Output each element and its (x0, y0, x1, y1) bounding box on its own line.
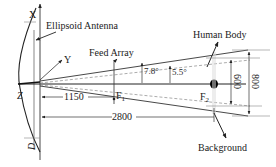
y-axis-label: Y (64, 54, 71, 65)
dim-800-label: 800 (250, 74, 261, 89)
dim-1150-label: 1150 (64, 91, 84, 102)
d-label: D (26, 142, 37, 151)
background-label: Background (198, 142, 247, 153)
focus2-label: F2 (200, 91, 210, 104)
feed-array-label: Feed Array (89, 47, 134, 58)
angle-inner-label: 5.5° (172, 67, 187, 77)
dim-2800-label: 2800 (112, 111, 132, 122)
x-axis-label: X (29, 9, 37, 20)
angle-outer-label: 7.8° (144, 66, 159, 76)
y-axis (40, 60, 62, 80)
ellipsoid-antenna-label: Ellipsoid Antenna (46, 20, 119, 31)
focus1-label: F1 (116, 90, 126, 103)
dim-600-label: 600 (232, 74, 243, 89)
ellipsoid-antenna-arc (19, 8, 40, 152)
antenna-geometry-diagram: X Ellipsoid Antenna Y Feed Array Human B… (0, 0, 276, 167)
human-body-label: Human Body (193, 29, 247, 40)
z-axis-label: Z (17, 90, 23, 101)
